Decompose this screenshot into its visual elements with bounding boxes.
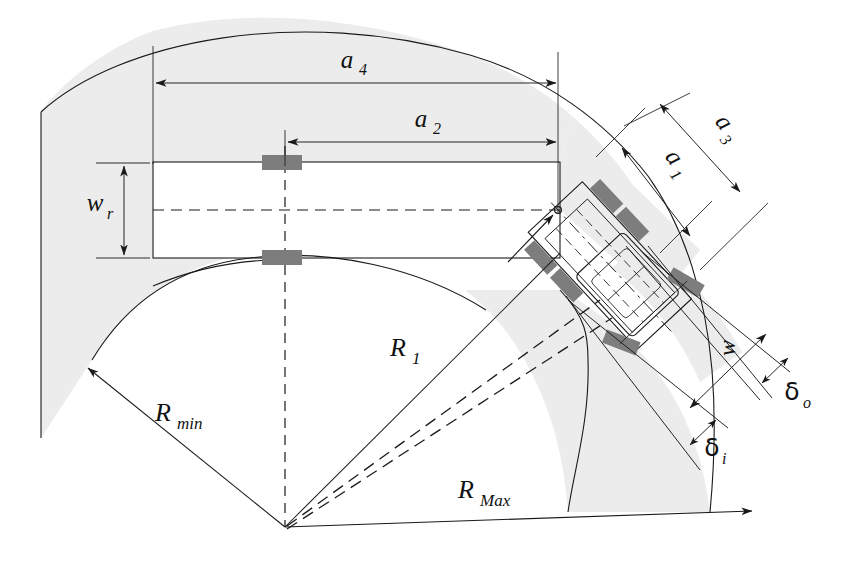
label-a4-text: a	[341, 46, 354, 73]
label-a2-subscript: 2	[433, 120, 441, 137]
label-a1-text: a	[660, 144, 689, 170]
label-delta-o-text: δ	[784, 377, 799, 406]
label-w: w	[714, 340, 740, 356]
label-rmax-text: R	[457, 475, 474, 504]
a3-extension-upper	[624, 93, 690, 126]
turning-circle-diagram: a 4 a 2 a 3 a 1 w r w R 1 R min R Max δ …	[0, 0, 842, 561]
trailer-wheel-upper	[262, 155, 302, 170]
label-a4-subscript: 4	[359, 61, 367, 78]
label-r1-subscript: 1	[412, 349, 421, 368]
label-delta-o: δ o	[784, 377, 811, 411]
r-max-line	[285, 511, 752, 527]
label-a3-text: a	[710, 109, 739, 135]
a3-extension-lower	[700, 203, 768, 270]
label-a3: a 3	[706, 109, 747, 149]
label-a2-text: a	[415, 105, 428, 132]
label-rmax: R Max	[457, 475, 511, 510]
diagram-canvas: a 4 a 2 a 3 a 1 w r w R 1 R min R Max δ …	[0, 0, 842, 561]
label-r1-text: R	[389, 333, 406, 362]
a1-extension-upper	[596, 108, 645, 157]
label-wr-subscript: r	[107, 205, 114, 222]
label-a1-subscript: 1	[667, 166, 685, 183]
label-delta-i-text: δ	[704, 433, 719, 462]
swept-path-regions	[41, 18, 742, 512]
trailer-wheel-lower	[262, 250, 302, 265]
label-delta-o-subscript: o	[803, 394, 811, 411]
label-r1: R 1	[389, 333, 420, 368]
label-delta-i-subscript: i	[722, 450, 726, 467]
label-a1: a 1	[656, 144, 697, 184]
label-delta-i: δ i	[704, 433, 726, 467]
label-rmin-text: R	[154, 398, 171, 427]
label-wr-text: w	[87, 189, 104, 216]
r-min-line	[88, 368, 285, 527]
label-w-text: w	[714, 340, 740, 356]
label-rmax-subscript: Max	[479, 491, 511, 510]
label-rmin-subscript: min	[177, 414, 203, 433]
